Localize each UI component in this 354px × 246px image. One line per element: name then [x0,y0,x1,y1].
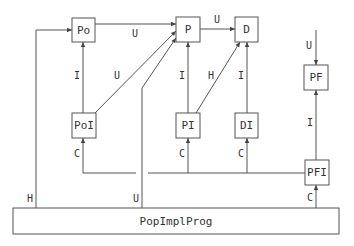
node-pi: PI [176,113,200,138]
node-popimplprog-label: PopImplProg [140,215,213,228]
node-po: Po [72,18,95,42]
label-prog-p: U [133,193,139,204]
edge-labels: U U I U I H I U I C C C C H U [27,14,313,204]
label-bus-pi: C [179,148,185,159]
edge-prog-p [142,38,176,208]
node-pf-label: PF [309,71,322,84]
label-pi-p: I [179,70,185,81]
label-pfi-pf: I [307,117,313,128]
edge-poi-p [95,31,176,113]
diagram-canvas: U U I U I H I U I C C C C H U Po P D PoI… [0,0,354,246]
label-pi-d: H [208,70,214,81]
label-po-p: U [132,28,138,39]
label-di-d: I [238,70,244,81]
label-poi-po: I [74,70,80,81]
label-prog-po: H [27,193,33,204]
label-bus-poi: C [74,148,80,159]
node-p: P [176,17,200,42]
edge-prog-po [36,30,72,208]
node-di-label: DI [240,119,253,132]
node-pfi: PFI [305,160,329,185]
label-p-d: U [214,14,220,25]
edge-pi-d [196,42,240,113]
node-d: D [235,17,258,42]
node-p-label: P [185,23,192,36]
bus-c-left [83,138,136,173]
node-poi: PoI [72,113,96,138]
node-po-label: Po [77,24,90,37]
label-poi-p: U [114,70,120,81]
node-d-label: D [243,23,250,36]
node-di: DI [235,113,258,138]
node-pi-label: PI [181,119,194,132]
label-prog-pfi: C [307,192,313,203]
node-pfi-label: PFI [307,166,327,179]
node-pf: PF [304,65,328,90]
node-poi-label: PoI [74,119,94,132]
node-popimplprog: PopImplProg [13,208,339,234]
label-bus-di: C [238,148,244,159]
label-top-pf: U [306,40,312,51]
